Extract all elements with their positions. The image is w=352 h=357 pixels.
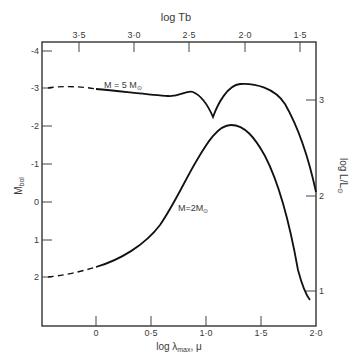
- right-axis-tick-labels: 3 2 1: [319, 95, 324, 296]
- svg-text:-1: -1: [31, 159, 39, 169]
- svg-text:1·5: 1·5: [254, 328, 267, 338]
- svg-text:2: 2: [319, 191, 324, 201]
- svg-text:-4: -4: [31, 46, 39, 56]
- svg-text:2·0: 2·0: [309, 328, 322, 338]
- svg-text:1: 1: [319, 286, 324, 296]
- svg-text:-2: -2: [31, 121, 39, 131]
- svg-text:3·0: 3·0: [127, 30, 140, 40]
- bottom-axis-ticks: [96, 316, 261, 326]
- svg-text:0·5: 0·5: [144, 328, 157, 338]
- svg-text:2: 2: [34, 272, 39, 282]
- svg-text:1: 1: [34, 235, 39, 245]
- svg-text:0: 0: [34, 197, 39, 207]
- svg-text:2·0: 2·0: [238, 30, 251, 40]
- left-axis-ticks: [42, 51, 52, 277]
- label-2msun: M=2M⊙: [178, 203, 208, 214]
- left-axis-tick-labels: -4 -3 -2 -1 0 1 2: [31, 46, 39, 282]
- right-axis-ticks: [306, 100, 316, 291]
- svg-text:1·5: 1·5: [293, 30, 306, 40]
- chart: log Tb 3·5 3·0 2·5 2·0 1·5 -4 -3 -2 -1 0…: [0, 0, 352, 357]
- series-5msun: [48, 84, 316, 192]
- svg-text:-3: -3: [31, 83, 39, 93]
- top-axis-title: log Tb: [161, 11, 191, 23]
- svg-text:1·0: 1·0: [199, 328, 212, 338]
- top-axis-tick-labels: 3·5 3·0 2·5 2·0 1·5: [72, 30, 306, 40]
- top-axis-ticks: [79, 42, 300, 52]
- left-axis-title: Mbol: [13, 177, 25, 195]
- bottom-axis-tick-labels: 0 0·5 1·0 1·5 2·0: [93, 328, 322, 338]
- svg-text:0: 0: [93, 328, 98, 338]
- svg-text:3·5: 3·5: [72, 30, 85, 40]
- label-5msun: M = 5 M⊙: [104, 80, 142, 91]
- svg-text:2·5: 2·5: [182, 30, 195, 40]
- svg-text:3: 3: [319, 95, 324, 105]
- plot-frame: [42, 42, 316, 326]
- right-axis-title: log L/L⊙: [337, 158, 349, 194]
- bottom-axis-title: log λmax, μ: [156, 341, 202, 353]
